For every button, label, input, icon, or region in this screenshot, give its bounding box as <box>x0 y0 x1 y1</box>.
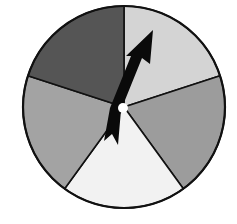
spinner-hub <box>118 103 128 113</box>
spinner <box>0 0 237 224</box>
spinner-graphic <box>0 0 237 224</box>
